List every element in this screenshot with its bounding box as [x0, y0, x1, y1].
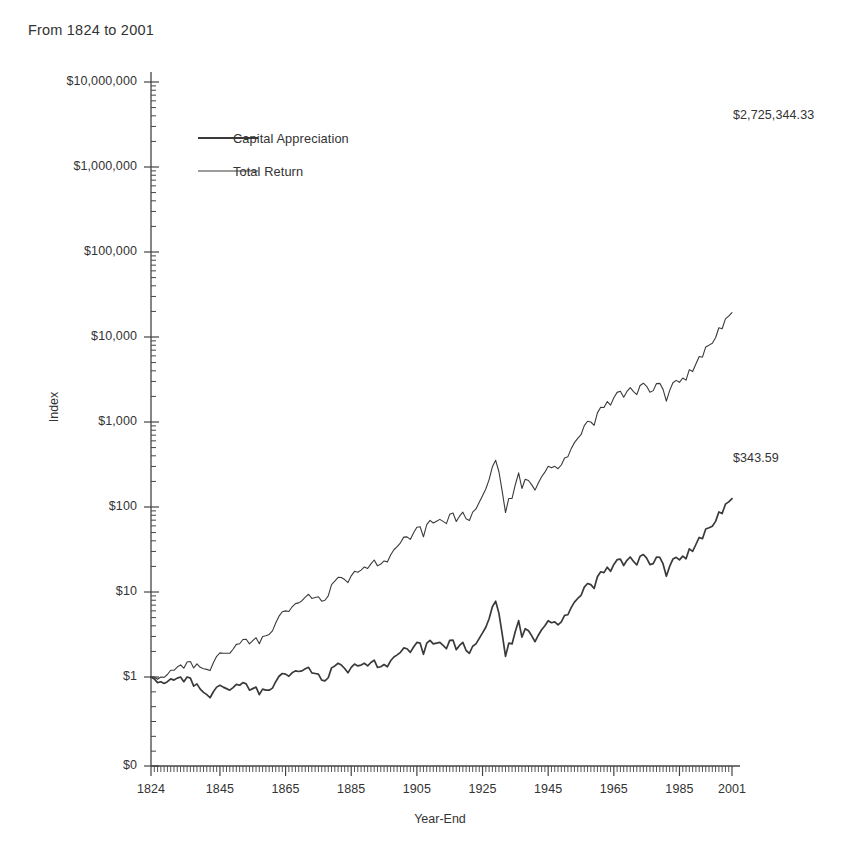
x-axis-tick-label: 2001 [692, 782, 772, 796]
chart-canvas [0, 0, 847, 862]
y-axis-tick-label: $10,000,000 [0, 74, 137, 88]
y-axis-tick-label: $0 [0, 758, 137, 772]
y-axis-tick-label: $1 [0, 669, 137, 683]
endpoint-label-capital-appreciation: $343.59 [733, 451, 779, 465]
chart-figure: From 1824 to 2001 $0$1$10$100$1,000$10,0… [0, 0, 847, 862]
endpoint-label-total-return: $2,725,344.33 [733, 108, 814, 122]
series-line-capital-appreciation [151, 499, 732, 698]
y-axis-tick-label: $10,000 [0, 329, 137, 343]
y-axis-tick-label: $10 [0, 584, 137, 598]
y-axis-title: Index [47, 347, 61, 467]
y-axis-tick-label: $1,000,000 [0, 159, 137, 173]
legend-label-capital-appreciation: Capital Appreciation [233, 131, 349, 146]
legend-label-total-return: Total Return [233, 164, 303, 179]
y-axis-tick-label: $100,000 [0, 244, 137, 258]
y-axis-tick-label: $100 [0, 499, 137, 513]
x-axis-title: Year-End [340, 812, 540, 826]
y-axis-tick-label: $1,000 [0, 414, 137, 428]
series-line-total-return [151, 313, 732, 680]
